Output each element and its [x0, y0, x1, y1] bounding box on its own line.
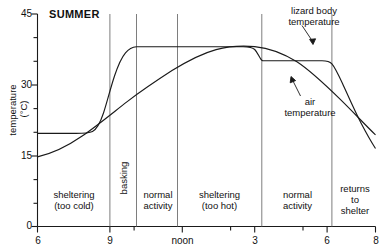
y-tick-marks: [32, 14, 38, 227]
zone-label-normal-activity-evening-line2: activity: [278, 200, 317, 212]
zone-label-sheltering-too-cold-line1: sheltering: [38, 189, 110, 201]
y-tick-label-45: 45: [18, 8, 32, 19]
y-tick-label-0: 0: [18, 220, 32, 231]
x-tick-label-noon: noon: [166, 235, 199, 246]
y-axis-title-line1: temperature: [7, 50, 18, 170]
x-tick-label-8pm: 8: [369, 235, 383, 246]
y-tick-label-15: 15: [18, 150, 32, 161]
zone-label-sheltering-too-cold-line2: (too cold): [38, 200, 110, 212]
zone-label-basking: basking: [118, 148, 130, 208]
zone-label-sheltering-too-hot-line1: sheltering: [183, 189, 256, 201]
chart-title: SUMMER: [49, 9, 100, 20]
zone-label-normal-activity-evening-line1: normal: [278, 189, 317, 201]
zone-label-normal-activity-morning-line1: normal: [139, 189, 177, 201]
arrow-head-lizard: [310, 39, 316, 45]
x-tick-label-9am: 9: [103, 235, 117, 246]
x-tick-label-6pm: 6: [320, 235, 334, 246]
x-tick-label-6am: 6: [31, 235, 45, 246]
y-tick-label-30: 30: [18, 79, 32, 90]
zone-label-normal-activity-morning-line2: activity: [139, 200, 177, 212]
zone-label-sheltering-too-hot-line2: (too hot): [183, 200, 256, 212]
annotation-lizard-body-temperature-line2: temperature: [274, 16, 354, 27]
annotation-air-temperature-line2: temperature: [275, 107, 345, 118]
arrow-head-air: [290, 77, 295, 83]
chart-canvas: [0, 0, 384, 251]
zone-label-returns-to-shelter-line1: returns: [334, 183, 376, 195]
annotation-air-temperature-line1: air: [275, 96, 345, 107]
zone-label-returns-to-shelter-line2: to: [334, 194, 376, 206]
x-tick-marks: [38, 227, 376, 233]
x-tick-label-3pm: 3: [248, 235, 262, 246]
zone-label-returns-to-shelter-line3: shelter: [334, 205, 376, 217]
annotation-lizard-body-temperature-line1: lizard body: [274, 5, 354, 16]
chart-figure: SUMMER temperature (°C) 45 30 15 0 6 9 n…: [0, 0, 384, 251]
